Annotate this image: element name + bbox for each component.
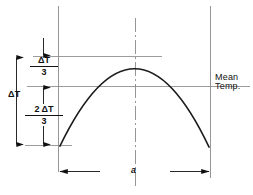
lower-fraction-denominator: 3 bbox=[25, 116, 63, 126]
upper-fraction-denominator: 3 bbox=[30, 67, 58, 77]
label-mean-temp: Mean Temp. bbox=[215, 73, 241, 92]
label-span-a: a bbox=[131, 166, 136, 175]
label-upper-third-fraction: ΔT 3 bbox=[30, 56, 58, 77]
temperature-profile-diagram: ΔT ΔT 3 2 ΔT 3 Mean Temp. a bbox=[0, 0, 253, 195]
label-delta-t: ΔT bbox=[8, 90, 20, 99]
mean-temp-line-2: Temp. bbox=[215, 82, 241, 91]
temperature-curve bbox=[60, 69, 209, 147]
label-lower-two-thirds-fraction: 2 ΔT 3 bbox=[25, 105, 63, 126]
upper-fraction-numerator: ΔT bbox=[30, 56, 58, 67]
diagram-canvas bbox=[0, 0, 253, 195]
lower-fraction-numerator: 2 ΔT bbox=[25, 105, 63, 116]
